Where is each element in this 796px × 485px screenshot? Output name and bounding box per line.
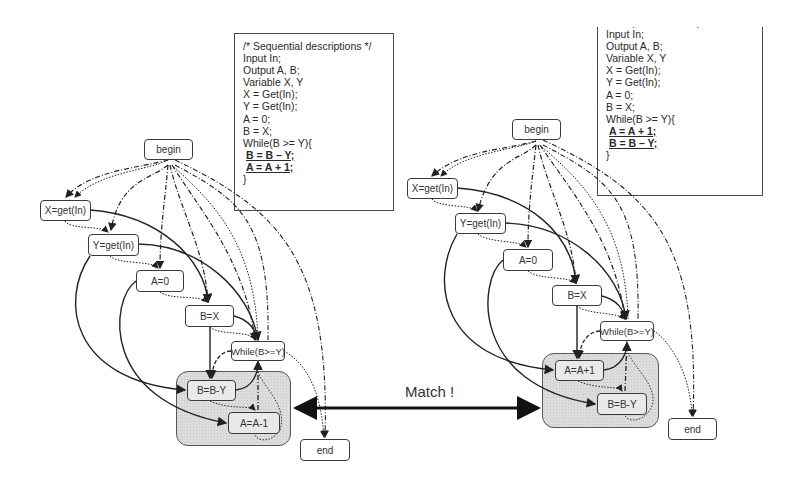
code-line: X = Get(In); bbox=[606, 64, 756, 76]
code-line: B = X; bbox=[243, 125, 387, 137]
code-line: B = X; bbox=[606, 101, 756, 113]
left-node-a-0: A=0 bbox=[136, 270, 184, 292]
right-node-x-get: X=get(In) bbox=[407, 178, 458, 199]
code-line: Output A, B; bbox=[243, 64, 387, 76]
code-line: A = 0; bbox=[606, 89, 756, 101]
code-line: X = Get(In); bbox=[243, 88, 387, 100]
code-line: Output A, B; bbox=[606, 40, 756, 52]
left-node-while: While(B>=Y) bbox=[231, 341, 285, 361]
match-label: Match ! bbox=[405, 383, 454, 400]
code-line-highlighted: B = B – Y; bbox=[243, 149, 387, 161]
right-node-y-get: Y=get(In) bbox=[455, 213, 506, 234]
code-line: Input In; bbox=[243, 52, 387, 64]
left-node-a-a-1: A=A-1 bbox=[228, 412, 280, 434]
left-node-b-x: B=X bbox=[185, 305, 234, 327]
code-line: Variable X, Y bbox=[606, 52, 756, 64]
left-node-end: end bbox=[300, 439, 350, 461]
left-node-y-get: Y=get(In) bbox=[88, 234, 139, 256]
code-line: While(B >= Y){ bbox=[243, 137, 387, 149]
code-line: A = 0; bbox=[243, 113, 387, 125]
left-node-b-b-y: B=B-Y bbox=[187, 380, 236, 401]
left-code-box: /* Sequential descriptions */ Input In; … bbox=[234, 33, 394, 211]
right-node-a-a-1: A=A+1 bbox=[555, 360, 604, 381]
code-line: /* Sequential descriptions */ bbox=[243, 40, 387, 52]
code-line: Y = Get(In); bbox=[606, 76, 756, 88]
code-line: Input In; bbox=[606, 28, 756, 40]
right-node-a-0: A=0 bbox=[503, 249, 553, 271]
code-line: While(B >= Y){ bbox=[606, 113, 756, 125]
code-line-highlighted: A = A + 1; bbox=[243, 161, 387, 173]
page-top-mask bbox=[590, 0, 770, 27]
code-line: } bbox=[606, 149, 756, 161]
right-node-while: While(B>=Y) bbox=[600, 321, 654, 341]
right-code-box: /* Sequential descriptions */ Input In; … bbox=[597, 20, 763, 196]
code-line-highlighted: B = B – Y; bbox=[606, 137, 756, 149]
right-node-b-x: B=X bbox=[552, 285, 602, 306]
code-line: Variable X, Y bbox=[243, 76, 387, 88]
left-node-x-get: X=get(In) bbox=[40, 200, 91, 221]
right-node-end: end bbox=[668, 418, 717, 440]
code-line: Y = Get(In); bbox=[243, 100, 387, 112]
right-node-b-b-y: B=B-Y bbox=[597, 393, 647, 415]
code-line: } bbox=[243, 173, 387, 185]
right-node-begin: begin bbox=[512, 119, 561, 140]
code-line-highlighted: A = A + 1; bbox=[606, 125, 756, 137]
left-node-begin: begin bbox=[144, 139, 193, 160]
